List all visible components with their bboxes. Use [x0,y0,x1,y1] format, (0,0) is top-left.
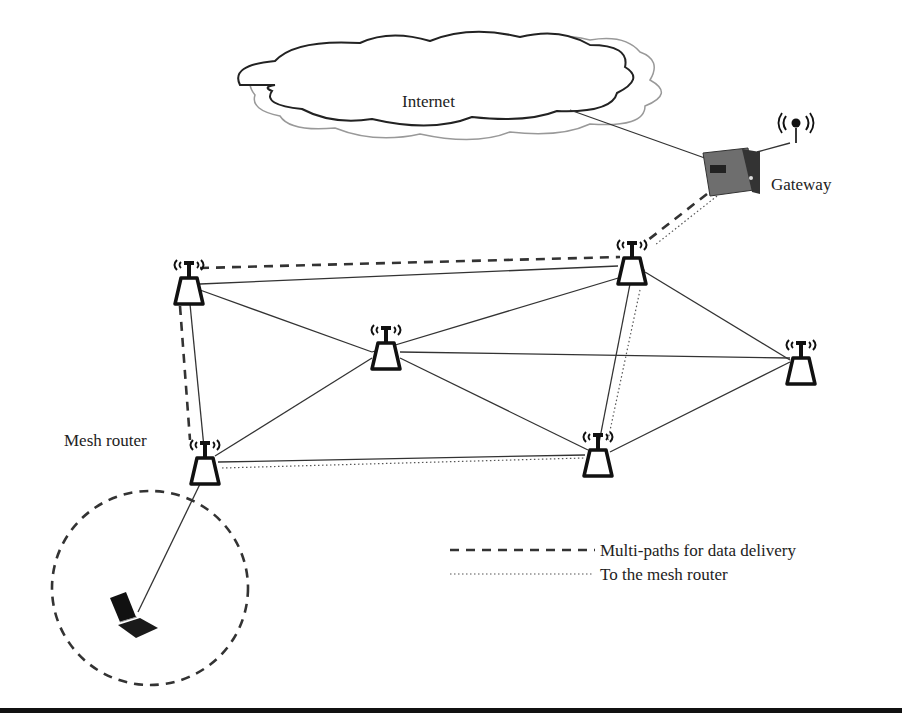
legend-dotted-label: To the mesh router [600,565,728,584]
wireless-mesh-network-diagram: Internet Gateway [0,0,902,721]
mesh-router-icon [372,325,401,369]
mesh-router-icon [787,340,816,384]
mesh-router-icon [175,260,204,304]
mesh-router-label: Mesh router [64,431,147,450]
internet-gateway-link [570,110,716,162]
legend-dashed-label: Multi-paths for data delivery [600,541,796,560]
mesh-router-icon [191,440,220,484]
to-router-links [222,196,717,468]
mesh-router-icon [618,240,647,284]
laptop-icon [110,592,158,638]
bottom-rule [0,708,902,713]
mesh-links [138,266,790,612]
multipath-links [180,194,707,440]
internet-cloud [238,32,661,140]
internet-label: Internet [402,92,455,111]
legend: Multi-paths for data delivery To the mes… [450,541,796,584]
mesh-router-icon [584,432,613,476]
gateway-label: Gateway [771,175,832,194]
